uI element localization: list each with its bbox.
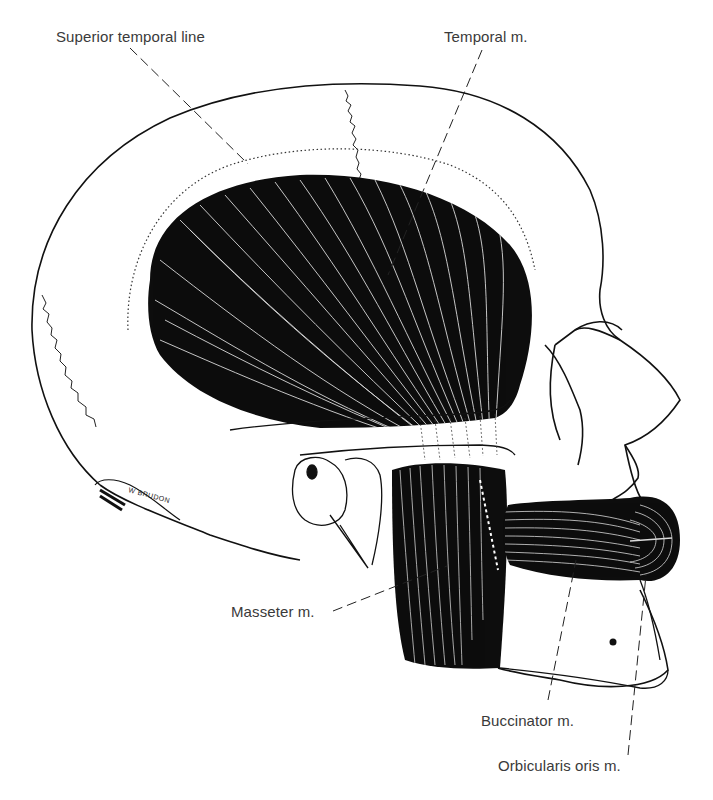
label-superior-temporal-line: Superior temporal line (56, 28, 205, 45)
leader-superior-temporal-line (130, 48, 248, 164)
temporal-muscle-shape (148, 175, 532, 440)
skull-muscle-illustration: W BRUDON (0, 0, 713, 800)
masseter-muscle-shape (392, 463, 507, 668)
label-orbicularis-oris-muscle: Orbicularis oris m. (498, 757, 621, 774)
leader-orbicularis-oris-muscle (628, 575, 646, 755)
label-temporal-muscle: Temporal m. (444, 28, 528, 45)
mastoid-process (292, 457, 381, 568)
buccinator-muscle-shape (503, 497, 680, 581)
artist-signature: W BRUDON (128, 486, 171, 504)
leader-buccinator-muscle (548, 560, 576, 700)
label-buccinator-muscle: Buccinator m. (481, 712, 574, 729)
label-masseter-muscle: Masseter m. (231, 603, 315, 620)
mental-foramen (610, 639, 617, 646)
illustration-canvas: W BRUDON (0, 0, 713, 800)
